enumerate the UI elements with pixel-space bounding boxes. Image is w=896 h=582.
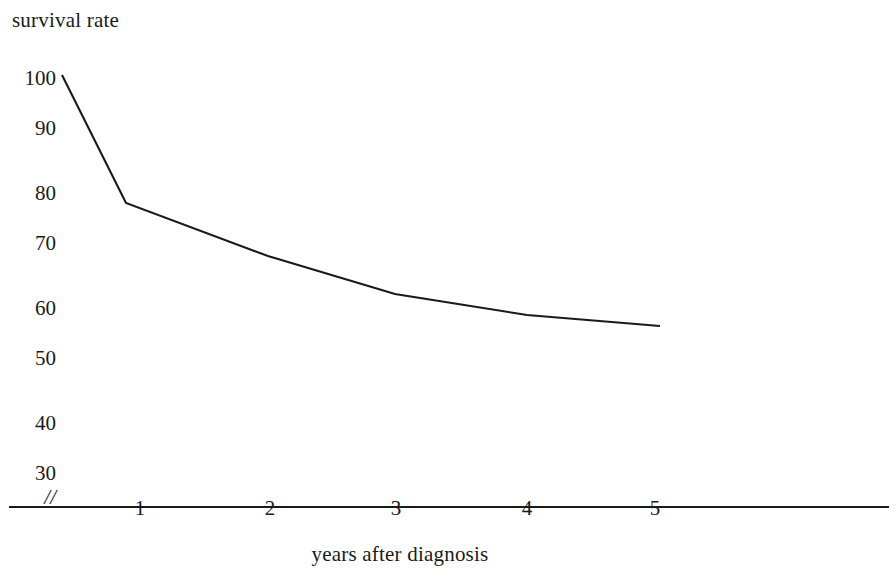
x-axis-tick-label: 1: [120, 498, 160, 519]
x-axis-tick-label: 5: [635, 498, 675, 519]
survival-rate-chart: survival rate 100 90 80 70 60 50 40 30 /…: [0, 0, 896, 582]
x-axis-tick-label: 2: [250, 498, 290, 519]
plot-area: [0, 0, 896, 582]
x-axis-title-wrapper: years after diagnosis: [0, 542, 896, 566]
x-axis-tick-label: 3: [376, 498, 416, 519]
survival-rate-line: [62, 75, 660, 326]
x-axis-title: years after diagnosis: [312, 542, 489, 566]
x-axis-tick-label: 4: [507, 498, 547, 519]
